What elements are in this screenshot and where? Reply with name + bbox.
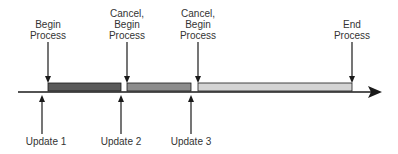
label-line: Process: [109, 30, 145, 41]
up-arrow-update-3: [188, 95, 194, 134]
process-bar-3: [198, 83, 352, 91]
label-line: Update 3: [171, 136, 212, 147]
label-line: Update 1: [26, 136, 67, 147]
label-line: Cancel,: [109, 8, 145, 19]
label-cancel-begin-process-1: Cancel, Begin Process: [109, 8, 145, 41]
down-arrow-end-process: [349, 42, 355, 83]
label-line: Process: [180, 30, 216, 41]
up-arrow-update-2: [118, 95, 124, 134]
label-end-process: End Process: [334, 19, 370, 41]
label-line: Update 2: [101, 136, 142, 147]
down-arrow-cancel-begin-1: [124, 42, 130, 83]
label-line: Begin: [30, 19, 66, 30]
label-line: Cancel,: [180, 8, 216, 19]
process-bar-2: [127, 83, 191, 91]
down-arrow-begin-process: [45, 42, 51, 83]
label-begin-process: Begin Process: [30, 19, 66, 41]
label-line: Process: [30, 30, 66, 41]
label-line: Begin: [180, 19, 216, 30]
up-arrow-update-1: [39, 95, 45, 134]
label-line: Process: [334, 30, 370, 41]
label-update-2: Update 2: [101, 136, 142, 147]
down-arrow-cancel-begin-2: [195, 42, 201, 83]
label-update-1: Update 1: [26, 136, 67, 147]
label-cancel-begin-process-2: Cancel, Begin Process: [180, 8, 216, 41]
label-update-3: Update 3: [171, 136, 212, 147]
process-bar-1: [48, 83, 121, 91]
label-line: Begin: [109, 19, 145, 30]
label-line: End: [334, 19, 370, 30]
